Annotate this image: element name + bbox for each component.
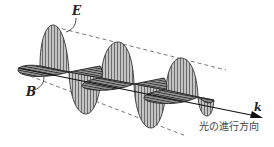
e-leader-line <box>66 18 76 32</box>
wave-vector-label: k <box>254 102 262 113</box>
electric-field-label: E <box>72 5 81 17</box>
e-lobe-up-2 <box>101 42 134 84</box>
propagation-direction-caption: 光の進行方向 <box>199 122 259 132</box>
upper-envelope-line <box>55 27 226 70</box>
magnetic-field-label: B <box>26 86 36 98</box>
e-lobe-up-1 <box>40 25 69 72</box>
electric-field-wave <box>40 25 214 128</box>
